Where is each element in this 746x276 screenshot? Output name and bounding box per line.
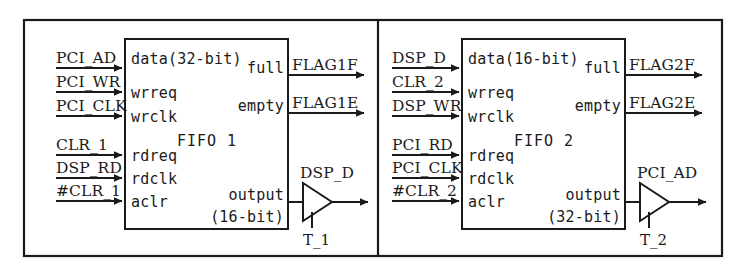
signal-label-clr-2: CLR_2 [392, 73, 444, 91]
signal-label-dsp-wr: DSP_WR [392, 97, 463, 115]
control-label-t-2: T_2 [640, 231, 667, 249]
control-label-t-1: T_1 [303, 231, 330, 249]
fifo-1-port-labels-left: data(32-bit) wrreq wrclk rdreq rdclk acl… [131, 50, 242, 211]
port-label-output-2: output [566, 186, 621, 204]
fifo-1-flag-labels: FLAG1F FLAG1E [292, 56, 358, 112]
port-label-data-1: data(32-bit) [131, 50, 242, 68]
signal-label-dsp-rd: DSP_RD [56, 159, 122, 177]
port-label-full-1: full [247, 59, 284, 77]
signal-label-flag2f: FLAG2F [629, 56, 695, 74]
port-label-empty-2: empty [575, 97, 621, 115]
port-label-full-2: full [584, 59, 621, 77]
fifo-2-name-label: FIFO 2 [514, 132, 574, 150]
signal-label-pci-rd: PCI_RD [392, 136, 453, 154]
fifo-1-input-labels-upper: PCI_AD PCI_WR PCI_CLK [56, 49, 127, 115]
port-label-output-1: output [229, 186, 284, 204]
block-1-group: PCI_AD PCI_WR PCI_CLK CLR_1 DSP_RD #CLR_… [56, 39, 368, 249]
fifo-2-port-labels-left: data(16-bit) wrreq wrclk rdreq rdclk acl… [468, 50, 579, 211]
port-label-rdclk-1: rdclk [131, 170, 177, 188]
signal-label-pci-ad-out: PCI_AD [637, 164, 697, 182]
signal-label-pci-clk: PCI_CLK [56, 97, 127, 115]
fifo-2-tristate-buffer [625, 183, 706, 228]
diagram-canvas: PCI_AD PCI_WR PCI_CLK CLR_1 DSP_RD #CLR_… [0, 0, 746, 276]
signal-label-flag1f: FLAG1F [292, 56, 358, 74]
signal-label-flag1e: FLAG1E [292, 94, 358, 112]
signal-label-hash-clr-2: #CLR_2 [392, 182, 457, 200]
fifo-2-flag-labels: FLAG2F FLAG2E [629, 56, 695, 112]
fifo-1-tristate-buffer [288, 183, 368, 228]
port-label-output-width-2: (32-bit) [547, 208, 621, 226]
block-2-group: DSP_D CLR_2 DSP_WR PCI_RD PCI_CLK #CLR_2… [392, 39, 706, 249]
port-label-empty-1: empty [238, 97, 284, 115]
port-label-wrclk-1: wrclk [131, 108, 177, 126]
signal-label-pci-clk-2: PCI_CLK [392, 159, 463, 177]
signal-label-pci-ad: PCI_AD [56, 49, 116, 67]
port-label-output-width-1: (16-bit) [210, 208, 284, 226]
port-label-rdreq-1: rdreq [131, 147, 177, 165]
port-label-aclr-2: aclr [468, 193, 505, 211]
signal-label-flag2e: FLAG2E [629, 94, 695, 112]
port-label-aclr-1: aclr [131, 193, 168, 211]
fifo-2-input-labels-upper: DSP_D CLR_2 DSP_WR [392, 49, 463, 115]
signal-label-pci-wr: PCI_WR [56, 73, 122, 91]
fifo-1-input-labels-lower: CLR_1 DSP_RD #CLR_1 [56, 136, 122, 200]
fifo-2-input-labels-lower: PCI_RD PCI_CLK #CLR_2 [392, 136, 463, 200]
port-label-wrreq-2: wrreq [468, 84, 514, 102]
signal-label-clr-1: CLR_1 [56, 136, 108, 154]
port-label-wrreq-1: wrreq [131, 84, 177, 102]
signal-label-dsp-d: DSP_D [392, 49, 446, 67]
fifo-1-name-label: FIFO 1 [177, 132, 237, 150]
port-label-data-2: data(16-bit) [468, 50, 579, 68]
port-label-wrclk-2: wrclk [468, 108, 514, 126]
signal-label-dsp-d-out: DSP_D [300, 164, 354, 182]
signal-label-hash-clr-1: #CLR_1 [56, 182, 121, 200]
fifo-block-diagram: PCI_AD PCI_WR PCI_CLK CLR_1 DSP_RD #CLR_… [0, 0, 746, 276]
port-label-rdclk-2: rdclk [468, 170, 514, 188]
port-label-rdreq-2: rdreq [468, 147, 514, 165]
